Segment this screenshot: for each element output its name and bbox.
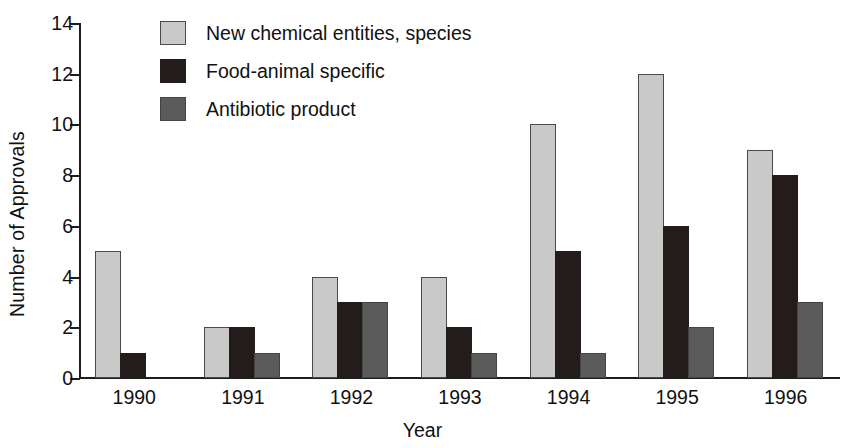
bar [362, 302, 388, 378]
bar-group [638, 23, 716, 378]
bar [446, 327, 472, 378]
bar-group [530, 23, 608, 378]
y-tick-label: 6 [62, 214, 73, 237]
bar [204, 327, 230, 378]
bar [530, 124, 556, 378]
x-tick-label: 1991 [189, 386, 298, 409]
bar [421, 277, 447, 378]
x-tick-label: 1996 [731, 386, 840, 409]
bar [663, 226, 689, 378]
legend-item: Food-animal specific [160, 52, 472, 90]
x-tick-label: 1992 [297, 386, 406, 409]
bar [688, 327, 714, 378]
y-axis-title: Number of Approvals [0, 0, 34, 448]
x-tick-label: 1995 [623, 386, 732, 409]
legend-swatch [160, 97, 186, 121]
y-tick-label: 10 [51, 113, 73, 136]
bar-group [747, 23, 825, 378]
y-tick-label: 14 [51, 12, 73, 35]
bar [120, 353, 146, 378]
bar [95, 251, 121, 378]
x-tick-label: 1990 [80, 386, 189, 409]
legend-item: New chemical entities, species [160, 14, 472, 52]
bar [254, 353, 280, 378]
bar [229, 327, 255, 378]
y-tick-label: 12 [51, 62, 73, 85]
bar [555, 251, 581, 378]
x-tick-label: 1994 [514, 386, 623, 409]
bar [312, 277, 338, 378]
x-axis-title: Year [0, 419, 845, 442]
y-tick-label: 4 [62, 265, 73, 288]
y-tick-label: 8 [62, 164, 73, 187]
legend-swatch [160, 21, 186, 45]
legend-label: Food-animal specific [206, 60, 385, 83]
legend: New chemical entities, speciesFood-anima… [160, 14, 472, 128]
bar [471, 353, 497, 378]
bar-chart: Number of Approvals 02468101214 19901991… [0, 0, 845, 448]
bar [580, 353, 606, 378]
bar [772, 175, 798, 378]
bar [797, 302, 823, 378]
y-tick-label: 2 [62, 316, 73, 339]
bar [747, 150, 773, 378]
y-tick-label: 0 [62, 367, 73, 390]
x-tick-label: 1993 [406, 386, 515, 409]
legend-swatch [160, 59, 186, 83]
legend-label: New chemical entities, species [206, 22, 472, 45]
legend-label: Antibiotic product [206, 98, 356, 121]
legend-item: Antibiotic product [160, 90, 472, 128]
bar [638, 74, 664, 378]
bar [337, 302, 363, 378]
